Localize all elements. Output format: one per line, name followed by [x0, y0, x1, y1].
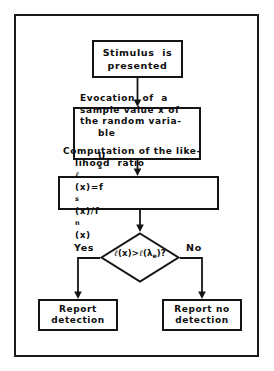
- node-report-no-detection: Report no detection: [162, 299, 242, 331]
- signal-density-subscript: s: [75, 193, 217, 205]
- node-stimulus-line-2: presented: [94, 59, 181, 72]
- flowchart-figure: Stimulus is presented Evocation of a sam…: [0, 0, 274, 371]
- arrowhead-report-detection: [74, 292, 82, 300]
- node-report-detection: Report detection: [38, 299, 118, 331]
- node-computation-prefix: lihood ratio: [75, 157, 217, 169]
- noise-density-subscript: n: [75, 217, 217, 229]
- likelihood-arg: (x)=f: [75, 181, 217, 193]
- decision-expr-left: (x)>: [118, 248, 139, 258]
- decision-condition-label: ℓ(x)>ℓ(λe)?: [100, 248, 180, 259]
- branch-label-yes: Yes: [74, 242, 94, 253]
- node-stimulus-presented: Stimulus is presented: [92, 40, 183, 78]
- node-evocation-line-2: sample value x of: [80, 105, 199, 117]
- arrow-yes-branch: [78, 258, 100, 293]
- decision-lambda-open: (λ: [143, 248, 153, 258]
- arrowhead-report-no-detection: [198, 292, 206, 300]
- node-computation-line-2: lihood ratio ℓ(x)=fs(x)/fn(x): [63, 157, 217, 241]
- node-report-no-detection-line-1: Report no: [164, 304, 240, 316]
- arrow-no-branch: [180, 258, 202, 293]
- node-report-detection-line-1: Report: [40, 304, 116, 316]
- likelihood-divider: (x)/f: [75, 205, 217, 217]
- node-report-no-detection-line-2: detection: [164, 315, 240, 327]
- node-computation-line-1: Computation of the like-: [63, 145, 217, 157]
- node-evocation-line-4-text: ble: [98, 128, 199, 140]
- likelihood-symbol: ℓ: [75, 169, 217, 181]
- node-stimulus-line-1: Stimulus is: [94, 46, 181, 59]
- node-evocation-line-3: the random varia-: [80, 116, 199, 128]
- node-evocation-line-1: Evocation of a: [80, 93, 199, 105]
- node-report-detection-line-2: detection: [40, 315, 116, 327]
- decision-lambda-close: )?: [157, 248, 166, 258]
- node-likelihood-ratio-computation: Computation of the like- lihood ratio ℓ(…: [58, 176, 219, 210]
- branch-label-no: No: [186, 242, 202, 253]
